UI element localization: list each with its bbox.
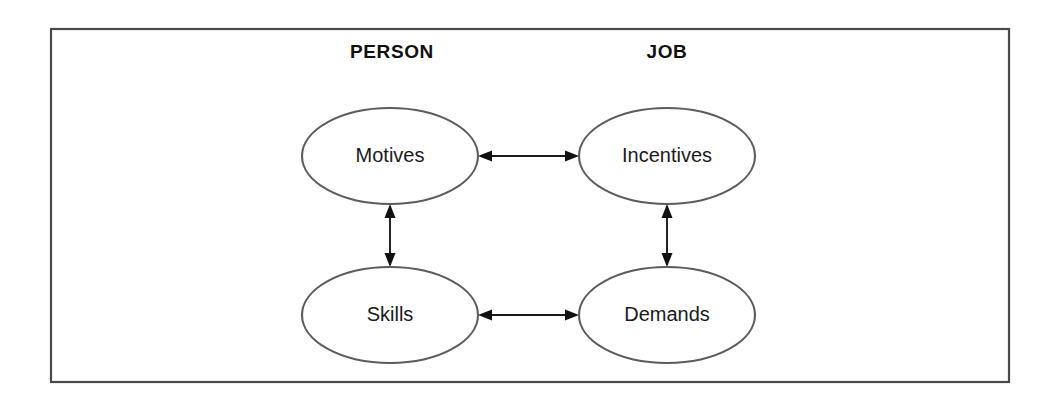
column-header-person: PERSON <box>350 41 434 62</box>
person-job-fit-diagram: PERSON JOB Motives Incent <box>0 0 1054 402</box>
node-skills[interactable]: Skills <box>302 267 478 363</box>
diagram-frame <box>51 29 1009 382</box>
node-motives[interactable]: Motives <box>302 108 478 204</box>
node-label-motives: Motives <box>356 144 425 166</box>
node-label-demands: Demands <box>624 303 710 325</box>
node-label-skills: Skills <box>367 303 414 325</box>
column-header-job: JOB <box>647 41 688 62</box>
node-label-incentives: Incentives <box>622 144 712 166</box>
node-incentives[interactable]: Incentives <box>579 108 755 204</box>
node-demands[interactable]: Demands <box>579 267 755 363</box>
diagram-canvas: PERSON JOB Motives Incent <box>0 0 1054 402</box>
